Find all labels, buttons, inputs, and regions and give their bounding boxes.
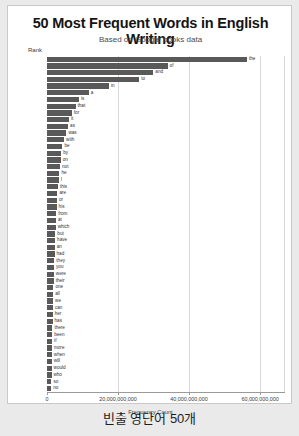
bar-row: 29an: [47, 244, 285, 251]
bar: [47, 117, 69, 122]
chart-card: 50 Most Frequent Words in English Writin…: [7, 5, 292, 404]
bar: [47, 97, 79, 102]
bar: [47, 70, 153, 75]
bar-value-label: have: [57, 237, 67, 243]
bar-row: 34their: [47, 278, 285, 285]
bar-value-label: they: [56, 258, 65, 264]
bar: [47, 245, 55, 250]
bar-row: 21are: [47, 190, 285, 197]
bar-row: 41there: [47, 325, 285, 332]
bar-value-label: so: [53, 379, 58, 385]
bar: [47, 359, 52, 364]
bar: [47, 258, 54, 263]
bar-row: 46will: [47, 358, 285, 365]
bar: [47, 225, 56, 230]
bar-value-label: an: [57, 244, 62, 250]
bar-row: 42been: [47, 332, 285, 339]
bar-value-label: this: [60, 184, 67, 190]
bar-row: 22or: [47, 197, 285, 204]
bar-row: 20this: [47, 184, 285, 191]
bar: [47, 386, 51, 391]
bar-value-label: with: [66, 137, 74, 143]
bar-row: 12was: [47, 130, 285, 137]
bar-row: 45when: [47, 352, 285, 359]
bar: [47, 164, 60, 169]
bar-value-label: the: [249, 56, 255, 62]
bar-value-label: he: [61, 170, 66, 176]
bar-value-label: all: [55, 291, 60, 297]
bar: [47, 90, 89, 95]
bar-value-label: can: [55, 305, 62, 311]
bar-value-label: been: [54, 332, 64, 338]
bar: [47, 339, 52, 344]
bar-row: 47would: [47, 365, 285, 372]
bar-value-label: when: [54, 352, 65, 358]
bar-value-label: and: [155, 69, 163, 75]
bar-value-label: or: [59, 197, 63, 203]
bar-row: 25at: [47, 217, 285, 224]
bar-value-label: it: [71, 116, 73, 122]
bar: [47, 372, 52, 377]
bar-row: 37we: [47, 298, 285, 305]
bar: [47, 211, 56, 216]
bar-value-label: will: [54, 358, 60, 364]
bar: [47, 137, 64, 142]
bar-row: 48who: [47, 372, 285, 379]
bar-value-label: to: [141, 76, 145, 82]
bar: [47, 231, 55, 236]
bar: [47, 124, 68, 129]
bar-row: 10it: [47, 116, 285, 123]
bar: [47, 63, 168, 68]
bar-value-label: a: [91, 90, 94, 96]
x-tickmark-3: [260, 392, 261, 395]
bar: [47, 110, 72, 115]
bar: [47, 312, 53, 317]
bar-value-label: were: [56, 271, 66, 277]
bar-value-label: are: [59, 190, 66, 196]
bar-value-label: who: [54, 372, 62, 378]
bar: [47, 184, 58, 189]
bar: [47, 352, 52, 357]
bar-row: 38can: [47, 305, 285, 312]
bar: [47, 251, 55, 256]
bar-value-label: one: [55, 284, 63, 290]
bar-value-label: be: [64, 143, 69, 149]
x-tickmark-0: [47, 392, 48, 395]
bar-row: 26which: [47, 224, 285, 231]
bar-row: 39her: [47, 311, 285, 318]
bar-row: 50no: [47, 385, 285, 392]
bar: [47, 366, 52, 371]
bar-value-label: for: [74, 110, 79, 116]
bar-value-label: no: [53, 385, 58, 391]
bar-value-label: would: [54, 365, 66, 371]
x-tickmark-1: [118, 392, 119, 395]
bar: [47, 325, 52, 330]
bar-value-label: not: [62, 164, 68, 170]
bar-value-label: at: [58, 217, 62, 223]
bar-value-label: that: [78, 103, 86, 109]
bar: [47, 83, 109, 88]
page-subtitle: Based on Google books data: [8, 35, 293, 44]
bar-row: 7is: [47, 96, 285, 103]
bar: [47, 104, 76, 109]
bar: [47, 198, 57, 203]
bar-value-label: if: [54, 338, 56, 344]
bar: [47, 285, 53, 290]
bar-row: 43if: [47, 338, 285, 345]
x-tick-label: 40,000,000,000: [170, 396, 207, 402]
bar-value-label: from: [58, 211, 67, 217]
bar: [47, 204, 57, 209]
figure-caption: 빈출 영단어 50개: [0, 408, 299, 427]
bar-row: 19I: [47, 177, 285, 184]
x-tick-label: 60,000,000,000: [241, 396, 278, 402]
bar: [47, 272, 54, 277]
bar: [47, 345, 52, 350]
bar-value-label: is: [81, 96, 84, 102]
bar-row: 4to: [47, 76, 285, 83]
bar-row: 17not: [47, 164, 285, 171]
y-axis-title: Rank: [28, 47, 42, 53]
bar-row: 33were: [47, 271, 285, 278]
bar-value-label: had: [57, 251, 65, 257]
x-tickmark-2: [189, 392, 190, 395]
bar-value-label: was: [68, 130, 76, 136]
